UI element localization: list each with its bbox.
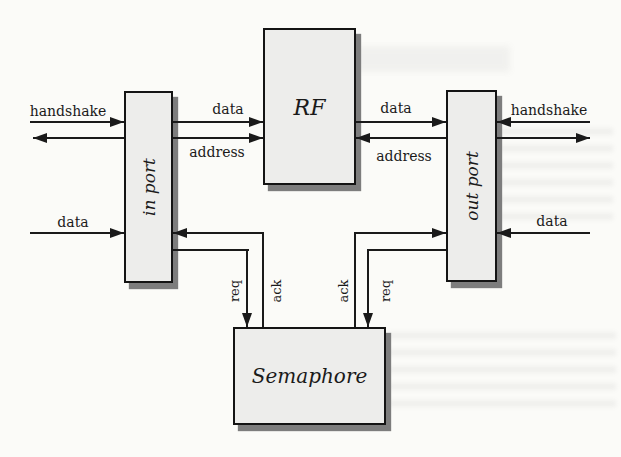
wire-label-handshake-left: handshake — [30, 104, 107, 118]
down-arrowhead — [242, 313, 252, 327]
right-arrowhead — [249, 117, 263, 127]
left-arrowhead — [33, 133, 47, 143]
node-rf: RF — [263, 28, 356, 185]
wire-label-data-external-right: data — [536, 214, 567, 228]
node-semaphore-label: Semaphore — [252, 364, 368, 388]
left-arrowhead — [497, 228, 511, 238]
wire-req-out-port-to-semaphore-horizontal — [367, 249, 446, 251]
down-arrowhead — [363, 313, 373, 327]
wire-label-data-in-port-to-rf: data — [212, 102, 243, 116]
wire-label-req-right: req — [379, 280, 392, 302]
wire-label-address-in-port-to-rf: address — [189, 145, 245, 159]
right-arrowhead — [110, 117, 124, 127]
wire-label-address-out-port-to-rf: address — [376, 149, 432, 163]
block-diagram: in port RF out port Semaphore — [0, 0, 621, 457]
left-arrowhead — [356, 133, 370, 143]
wire-label-req-left: req — [228, 280, 241, 302]
node-out-port: out port — [446, 90, 497, 282]
right-arrowhead — [432, 117, 446, 127]
right-arrowhead — [110, 228, 124, 238]
node-out-port-label: out port — [462, 151, 482, 221]
wire-req-in-port-to-semaphore-horizontal — [173, 249, 249, 251]
node-rf-label: RF — [294, 94, 326, 119]
scanned-page: in port RF out port Semaphore — [0, 0, 621, 457]
wire-label-ack-left: ack — [270, 280, 283, 303]
node-in-port: in port — [124, 91, 173, 283]
node-in-port-label: in port — [139, 158, 159, 216]
right-arrowhead — [432, 228, 446, 238]
node-semaphore: Semaphore — [233, 327, 386, 425]
wire-label-data-external-left: data — [57, 215, 88, 229]
right-arrowhead — [249, 133, 263, 143]
wire-label-handshake-right: handshake — [511, 103, 588, 117]
left-arrowhead — [173, 228, 187, 238]
right-arrowhead — [576, 133, 590, 143]
left-arrowhead — [497, 117, 511, 127]
wire-label-data-rf-to-out-port: data — [380, 101, 411, 115]
wire-label-ack-right: ack — [337, 280, 350, 303]
wire-ack-right-vertical — [354, 232, 356, 327]
wire-ack-left-vertical — [262, 232, 264, 327]
